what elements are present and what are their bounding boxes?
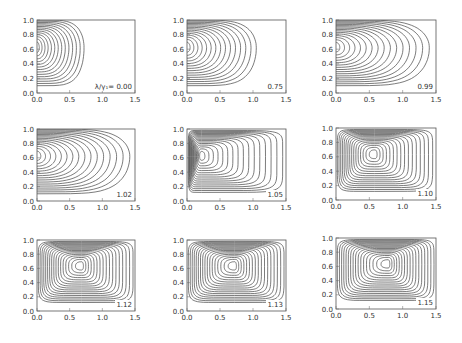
x-tick-label: 0.0 xyxy=(330,203,341,211)
x-tick-label: 0.5 xyxy=(214,314,225,322)
contour-line xyxy=(381,260,390,268)
contour-line xyxy=(66,256,91,278)
contour-lines xyxy=(336,20,429,86)
y-tick-label: 0.2 xyxy=(322,75,333,83)
y-tick-label: 1.0 xyxy=(23,126,34,134)
x-tick-label: 0.5 xyxy=(214,204,225,212)
x-tick-label: 1.0 xyxy=(97,314,108,322)
y-tick-label: 0.4 xyxy=(173,169,185,177)
contour-line xyxy=(37,149,46,164)
y-tick-label: 0.6 xyxy=(173,46,185,54)
y-tick-label: 0.4 xyxy=(23,60,35,68)
parameter-label: 1.12 xyxy=(116,301,132,309)
contour-line xyxy=(37,151,41,160)
y-tick-label: 0.4 xyxy=(322,168,334,176)
contour-panel-3: 0.00.20.40.60.81.00.00.51.01.51.02 xyxy=(23,126,141,213)
y-tick-label: 0.8 xyxy=(322,249,333,257)
x-tick-label: 0.0 xyxy=(330,96,341,104)
contour-line xyxy=(200,151,205,160)
y-tick-label: 1.0 xyxy=(322,125,333,133)
contour-figure: 0.00.20.40.60.81.00.00.51.01.5λ/γ₁= 0.00… xyxy=(0,0,462,343)
x-tick-label: 1.0 xyxy=(97,204,108,212)
y-tick-label: 1.0 xyxy=(173,17,184,25)
parameter-label: 1.10 xyxy=(417,190,433,198)
x-tick-label: 0.0 xyxy=(181,204,192,212)
y-tick-label: 0.4 xyxy=(322,277,334,285)
parameter-label: λ/γ₁= 0.00 xyxy=(95,83,132,91)
y-tick-label: 0.4 xyxy=(173,279,185,287)
contour-line xyxy=(210,252,253,284)
x-tick-label: 1.0 xyxy=(97,96,108,104)
x-tick-label: 0.5 xyxy=(364,203,375,211)
contour-line xyxy=(76,262,84,270)
x-tick-label: 0.0 xyxy=(181,314,192,322)
contour-line xyxy=(228,262,236,270)
x-tick-label: 0.0 xyxy=(31,204,42,212)
parameter-label: 0.99 xyxy=(417,83,433,91)
y-tick-label: 1.0 xyxy=(322,235,333,243)
y-tick-label: 0.8 xyxy=(23,251,34,259)
x-tick-label: 0.0 xyxy=(31,314,42,322)
y-tick-label: 1.0 xyxy=(173,237,184,245)
x-tick-label: 1.0 xyxy=(397,312,408,320)
y-tick-label: 0.8 xyxy=(23,140,34,148)
contour-lines xyxy=(38,241,133,302)
x-tick-label: 1.5 xyxy=(430,312,441,320)
contour-panel-0: 0.00.20.40.60.81.00.00.51.01.5λ/γ₁= 0.00 xyxy=(23,17,141,105)
x-tick-label: 0.0 xyxy=(31,96,42,104)
y-tick-label: 0.2 xyxy=(173,75,184,83)
y-tick-label: 0.2 xyxy=(173,183,184,191)
y-tick-label: 0.6 xyxy=(23,154,35,162)
contour-panel-2: 0.00.20.40.60.81.00.00.51.01.50.99 xyxy=(322,17,442,105)
x-tick-label: 1.0 xyxy=(247,96,258,104)
contour-panel-4: 0.00.20.40.60.81.00.00.51.01.51.05 xyxy=(173,126,292,213)
y-tick-label: 0.2 xyxy=(23,75,34,83)
y-tick-label: 0.6 xyxy=(322,263,334,271)
y-tick-label: 0.2 xyxy=(173,293,184,301)
contour-panel-5: 0.00.20.40.60.81.00.00.51.01.51.10 xyxy=(322,125,442,212)
y-tick-label: 1.0 xyxy=(23,17,34,25)
y-tick-label: 0.2 xyxy=(322,291,333,299)
x-tick-label: 1.5 xyxy=(280,314,291,322)
y-tick-label: 0.4 xyxy=(23,279,35,287)
x-tick-label: 0.5 xyxy=(364,96,375,104)
y-tick-label: 0.4 xyxy=(23,169,35,177)
contour-line xyxy=(187,30,216,68)
contour-lines xyxy=(188,241,284,302)
contour-line xyxy=(37,133,104,186)
x-tick-label: 1.5 xyxy=(280,204,291,212)
x-tick-label: 1.0 xyxy=(397,96,408,104)
contour-lines xyxy=(37,20,84,86)
y-tick-label: 1.0 xyxy=(23,237,34,245)
y-tick-label: 0.2 xyxy=(23,183,34,191)
x-tick-label: 0.0 xyxy=(330,312,341,320)
x-tick-label: 1.5 xyxy=(280,96,291,104)
y-tick-label: 0.6 xyxy=(23,265,35,273)
contour-lines xyxy=(187,20,256,86)
y-tick-label: 0.8 xyxy=(173,31,184,39)
x-tick-label: 0.5 xyxy=(364,312,375,320)
y-tick-label: 0.2 xyxy=(322,182,333,190)
y-tick-label: 0.6 xyxy=(322,153,334,161)
y-tick-label: 0.2 xyxy=(23,293,34,301)
y-tick-label: 0.8 xyxy=(173,251,184,259)
contour-line xyxy=(369,150,377,159)
x-tick-label: 0.5 xyxy=(214,96,225,104)
x-tick-label: 1.0 xyxy=(247,204,258,212)
contour-lines xyxy=(337,239,434,300)
y-tick-label: 0.8 xyxy=(173,140,184,148)
contour-lines xyxy=(37,129,130,194)
x-tick-label: 1.5 xyxy=(129,96,140,104)
y-tick-label: 1.0 xyxy=(173,126,184,134)
contour-panel-8: 0.00.20.40.60.81.00.00.51.01.51.15 xyxy=(322,235,442,321)
contour-line xyxy=(37,35,48,62)
contour-lines xyxy=(337,129,432,191)
parameter-label: 1.02 xyxy=(116,191,132,199)
contour-line xyxy=(336,36,355,61)
contour-panel-7: 0.00.20.40.60.81.00.00.51.01.51.13 xyxy=(173,237,292,323)
y-tick-label: 0.8 xyxy=(322,31,333,39)
y-tick-label: 0.6 xyxy=(173,154,185,162)
contour-line xyxy=(37,145,56,169)
parameter-label: 1.05 xyxy=(267,191,283,199)
parameter-label: 1.15 xyxy=(417,299,433,307)
